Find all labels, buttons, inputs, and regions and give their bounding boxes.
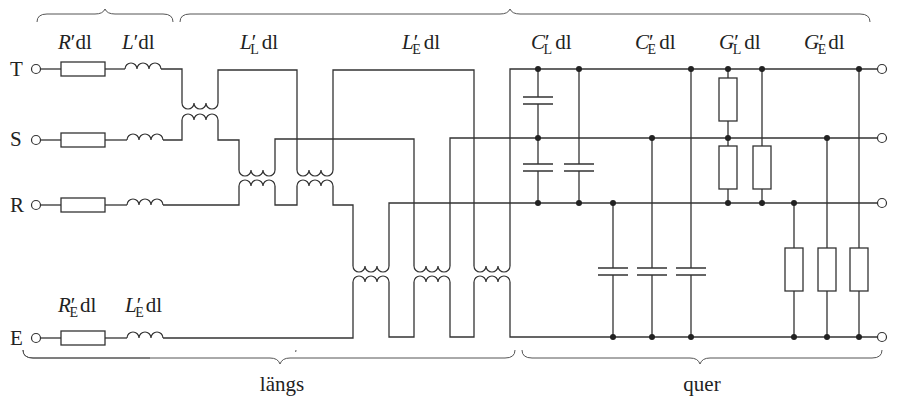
brace-top-main xyxy=(180,9,870,22)
capacitor-CE-S xyxy=(637,138,667,337)
capacitor-CL-T-S xyxy=(523,69,553,138)
coupling-coil-T-E-lower xyxy=(474,276,510,282)
circuit-diagram: längs quer T S R E R′dl L′dl R′Edl L′Edl… xyxy=(0,0,899,411)
brace-top-left xyxy=(37,9,173,22)
terminal-label-E: E xyxy=(10,326,23,350)
label-GL-prime-dl: G′Ldl xyxy=(719,30,761,57)
coupling-coil-T-R-upper xyxy=(297,170,333,176)
label-L-prime-dl: L′dl xyxy=(121,30,155,54)
label-GE-prime-dl: G′Edl xyxy=(804,30,845,57)
terminal-T-in xyxy=(32,65,41,74)
resistor-R-S xyxy=(61,133,105,147)
quer-label: quer xyxy=(683,372,720,396)
inductor-LE xyxy=(127,332,163,338)
series-branch-S xyxy=(32,120,183,147)
inductor-L-R xyxy=(127,199,163,205)
series-branch-T xyxy=(32,62,183,103)
conductance-GE-S xyxy=(818,138,836,337)
terminal-R-in xyxy=(32,201,41,210)
coupling-coil-S-R-lower xyxy=(239,180,275,186)
resistor-R-T xyxy=(61,62,105,76)
terminal-S-in xyxy=(32,136,41,145)
conductance-GE-R xyxy=(785,203,803,337)
wire-S xyxy=(218,120,882,266)
coupling-coil-T-R-lower xyxy=(297,180,333,186)
svg-text:C′Edl: C′Edl xyxy=(635,30,676,57)
inductor-L-T xyxy=(125,63,161,69)
svg-text:G′Ldl: G′Ldl xyxy=(719,30,761,57)
brace-quer xyxy=(522,350,882,364)
terminal-label-S: S xyxy=(10,127,22,151)
capacitor-CL-T-R xyxy=(564,69,594,203)
terminal-T-out xyxy=(878,65,887,74)
svg-text:L′dl: L′dl xyxy=(121,30,155,54)
label-R-prime-dl: R′dl xyxy=(57,30,92,54)
wire-T xyxy=(218,69,882,266)
svg-text:C′Ldl: C′Ldl xyxy=(531,30,572,57)
coupling-coil-T-E-upper xyxy=(474,266,510,272)
label-LL-prime-dl: L′Ldl xyxy=(239,30,278,57)
terminal-E-in xyxy=(32,334,41,343)
coupling-coil-S-R-upper xyxy=(239,170,275,176)
label-LE-coupling-prime-dl: L′Edl xyxy=(401,30,440,57)
coupling-coil-S-E-lower xyxy=(414,276,450,282)
conductance-GL-T-S xyxy=(719,69,737,138)
label-LE-prime-dl: L′Edl xyxy=(124,293,162,320)
terminal-S-out xyxy=(878,134,887,143)
label-CE-prime-dl: C′Edl xyxy=(635,30,676,57)
svg-text:L′Ldl: L′Ldl xyxy=(239,30,278,57)
capacitor-CE-R xyxy=(598,203,628,337)
mask xyxy=(150,352,310,368)
svg-text:R′dl: R′dl xyxy=(57,30,92,54)
series-branch-R xyxy=(32,186,240,212)
label-RE-prime-dl: R′Edl xyxy=(57,293,96,320)
resistor-R-R xyxy=(61,198,105,212)
svg-text:R′Edl: R′Edl xyxy=(57,293,96,320)
conductance-GL-T-R xyxy=(753,69,771,203)
coupling-coil-T-S-upper xyxy=(182,103,218,109)
coupling-coil-R-E-lower xyxy=(353,276,389,282)
coupling-coil-S-E-upper xyxy=(414,266,450,272)
terminal-E-out xyxy=(878,333,887,342)
coupling-coil-T-S-lower xyxy=(182,114,218,120)
wire-E xyxy=(389,282,882,337)
coupling-coil-R-E-upper xyxy=(353,266,389,272)
terminal-label-T: T xyxy=(10,57,23,81)
terminal-R-out xyxy=(878,199,887,208)
svg-text:L′Edl: L′Edl xyxy=(401,30,440,57)
inductor-L-S xyxy=(127,134,163,140)
label-CL-prime-dl: C′Ldl xyxy=(531,30,572,57)
terminal-label-R: R xyxy=(10,193,24,217)
conductance-GL-S-R xyxy=(719,138,737,203)
svg-text:L′Edl: L′Edl xyxy=(124,293,162,320)
laengs-label: längs xyxy=(260,372,304,396)
svg-text:G′Edl: G′Edl xyxy=(804,30,845,57)
capacitor-CL-S-R xyxy=(523,138,553,203)
resistor-RE xyxy=(61,331,105,345)
